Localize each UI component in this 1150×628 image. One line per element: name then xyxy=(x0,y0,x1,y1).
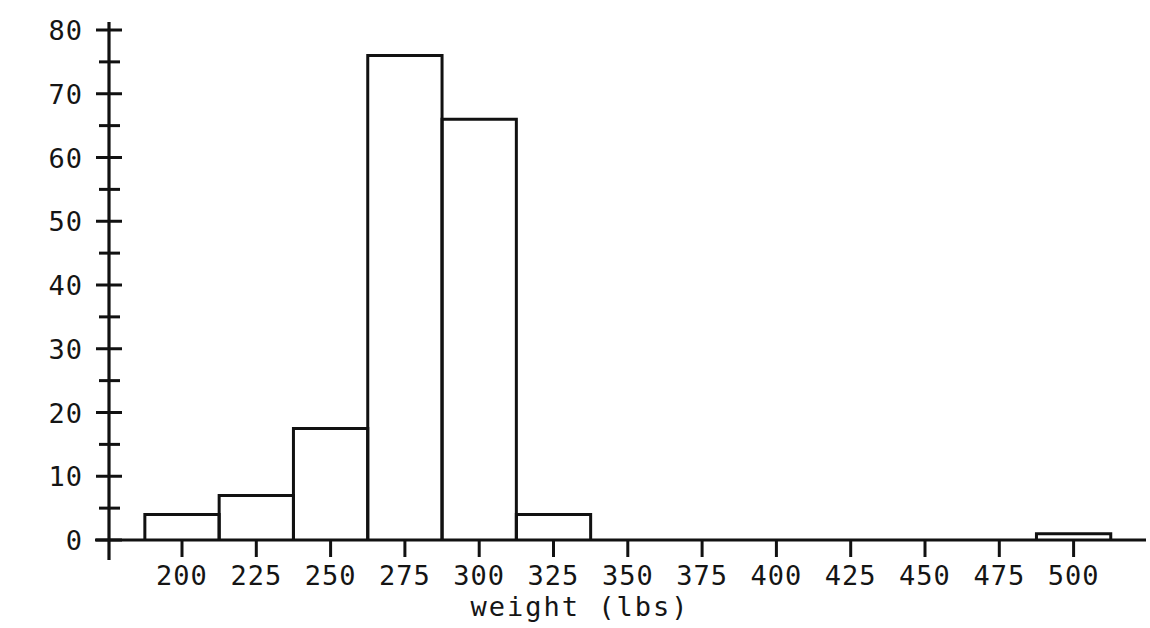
histogram-bar xyxy=(442,119,516,540)
x-tick-label: 425 xyxy=(825,560,877,591)
y-tick-label: 0 xyxy=(66,525,83,556)
x-tick-label: 350 xyxy=(602,560,654,591)
x-tick-label: 200 xyxy=(156,560,208,591)
x-tick-label: 500 xyxy=(1048,560,1100,591)
x-tick-label: 275 xyxy=(379,560,431,591)
x-tick-label: 400 xyxy=(751,560,803,591)
x-tick-label: 450 xyxy=(899,560,951,591)
x-axis-title: weight (lbs) xyxy=(470,591,689,622)
x-tick-label: 375 xyxy=(676,560,728,591)
y-tick-label: 10 xyxy=(48,461,83,492)
y-tick-label: 60 xyxy=(48,143,83,174)
y-tick-label: 70 xyxy=(48,79,83,110)
x-tick-label: 250 xyxy=(305,560,357,591)
axes-group xyxy=(95,22,1146,560)
histogram-plot: 0102030405060708020022525027530032535037… xyxy=(0,0,1150,628)
y-tick-label: 40 xyxy=(48,270,83,301)
histogram-bar xyxy=(145,515,219,541)
x-tick-label: 325 xyxy=(528,560,580,591)
tick-labels-group: 0102030405060708020022525027530032535037… xyxy=(48,15,1099,591)
y-tick-label: 20 xyxy=(48,398,83,429)
x-tick-label: 300 xyxy=(453,560,505,591)
bars-group xyxy=(145,56,1111,541)
histogram-bar xyxy=(293,428,367,540)
histogram-figure: 0102030405060708020022525027530032535037… xyxy=(0,0,1150,628)
x-tick-label: 475 xyxy=(973,560,1025,591)
y-tick-label: 80 xyxy=(48,15,83,46)
x-tick-label: 225 xyxy=(230,560,282,591)
y-tick-label: 50 xyxy=(48,206,83,237)
histogram-bar xyxy=(368,56,442,541)
y-tick-label: 30 xyxy=(48,334,83,365)
histogram-bar xyxy=(516,515,590,541)
histogram-bar xyxy=(219,495,293,540)
